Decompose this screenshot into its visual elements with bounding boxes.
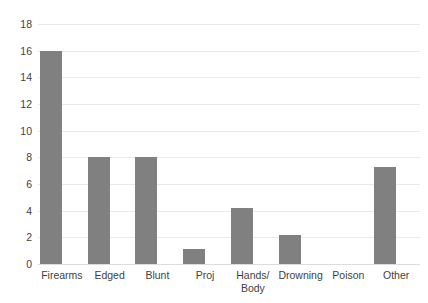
y-axis-tick-18: 18 (0, 19, 32, 30)
gridline-16 (38, 51, 420, 52)
y-axis-tick-10: 10 (0, 125, 32, 136)
gridline-12 (38, 104, 420, 105)
gridline-10 (38, 131, 420, 132)
gridline-0 (38, 264, 420, 265)
bar (374, 167, 396, 264)
y-axis-tick-0: 0 (0, 259, 32, 270)
bar (183, 249, 205, 264)
x-axis-tick-label: Proj (181, 269, 229, 282)
x-axis-tick-label: Firearms (38, 269, 86, 282)
y-axis-tick-8: 8 (0, 152, 32, 163)
x-axis-tick-label: Other (372, 269, 420, 282)
y-axis-tick-6: 6 (0, 179, 32, 190)
y-axis-tick-4: 4 (0, 205, 32, 216)
x-axis-tick-label: Hands/ Body (229, 269, 277, 295)
x-axis-tick-label: Poison (325, 269, 373, 282)
gridline-18 (38, 24, 420, 25)
bar (88, 157, 110, 264)
bar (135, 157, 157, 264)
y-axis-tick-2: 2 (0, 232, 32, 243)
y-axis-tick-12: 12 (0, 99, 32, 110)
x-axis-tick-label: Edged (86, 269, 134, 282)
y-axis-tick-14: 14 (0, 72, 32, 83)
x-axis-tick-label: Blunt (134, 269, 182, 282)
x-axis-tick-label: Drowning (277, 269, 325, 282)
gridline-14 (38, 77, 420, 78)
bar-chart: 181614121086420FirearmsEdgedBluntProjHan… (0, 0, 428, 303)
bar (40, 51, 62, 264)
y-axis-tick-16: 16 (0, 45, 32, 56)
bar (279, 235, 301, 264)
bar (231, 208, 253, 264)
